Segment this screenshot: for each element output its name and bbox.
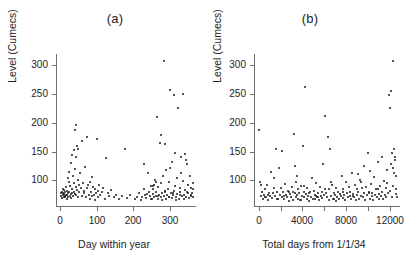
x-axis-tick-label: 4000 [282,215,322,226]
x-axis-tick [390,207,391,211]
y-axis-tick-label: 250 [16,88,48,99]
data-point [321,197,323,199]
data-point [366,194,368,196]
x-axis-tick [60,207,61,211]
data-point [185,196,187,198]
data-point [392,60,394,62]
data-point [358,198,360,200]
y-axis-tick [52,152,56,153]
data-point [344,199,346,201]
x-axis-tick [133,207,134,211]
data-point [390,163,392,165]
x-axis-tick [324,207,325,211]
data-point [155,181,157,183]
data-point [330,181,332,183]
data-point [349,195,351,197]
data-point [308,200,310,202]
y-axis-tick [250,123,254,124]
data-point [278,167,280,169]
data-point [91,176,93,178]
data-point [162,175,164,177]
data-point [182,93,184,95]
data-point [108,195,110,197]
data-point [168,181,170,183]
data-point [321,191,323,193]
y-axis-tick-label: 100 [214,174,246,185]
data-point [73,182,75,184]
data-point [75,186,77,188]
x-axis-tick-label: 100 [77,215,117,226]
data-point [279,194,281,196]
data-point [168,196,170,198]
x-axis-tick-label: 8000 [326,215,366,226]
data-point [261,191,263,193]
data-point [317,192,319,194]
data-point [288,200,290,202]
data-point [104,198,106,200]
data-point [149,195,151,197]
data-point [329,148,331,150]
data-point [346,192,348,194]
x-axis-tick-label: 300 [150,215,190,226]
data-point [110,189,112,191]
data-point [300,199,302,201]
data-point [283,195,285,197]
data-point [102,187,104,189]
data-point [113,196,115,198]
data-point [89,198,91,200]
data-point [335,187,337,189]
data-point [280,187,282,189]
data-point [157,198,159,200]
y-axis-tick [250,65,254,66]
data-point [163,60,165,62]
data-point [274,195,276,197]
panel-a-title: (a) [0,11,204,26]
data-point [67,177,69,179]
y-axis-tick [52,180,56,181]
data-point [388,94,390,96]
data-point [148,191,150,193]
data-point [361,187,363,189]
data-point [76,145,78,147]
data-point [75,156,77,158]
x-axis-tick [346,207,347,211]
data-point [379,185,381,187]
data-point [77,148,79,150]
data-point [367,152,369,154]
x-axis-spine [254,206,400,207]
data-point [326,196,328,198]
data-point [175,196,177,198]
data-point [78,191,80,193]
data-point [380,195,382,197]
data-point [311,177,313,179]
y-axis-tick-label: 200 [16,117,48,128]
y-axis-tick-label: 250 [214,88,246,99]
data-point [343,194,345,196]
data-point [303,191,305,193]
data-point [161,199,163,201]
y-axis-tick-label: 300 [214,59,246,70]
data-point [360,181,362,183]
data-point [284,183,286,185]
data-point [74,129,76,131]
data-point [179,191,181,193]
data-point [289,193,291,195]
y-axis-tick [250,180,254,181]
data-point [338,198,340,200]
data-point [325,192,327,194]
data-point [273,187,275,189]
data-point [88,194,90,196]
data-point [371,195,373,197]
data-point [319,186,321,188]
data-point [342,191,344,193]
data-point [264,196,266,198]
data-point [341,175,343,177]
data-point [176,177,178,179]
data-point [105,157,107,159]
data-point [351,172,353,174]
data-point [369,170,371,172]
data-point [75,124,77,126]
data-point [97,190,99,192]
data-point [272,192,274,194]
data-point [66,198,68,200]
